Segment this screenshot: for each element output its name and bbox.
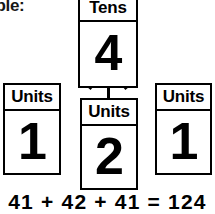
worksheet-figure: iple: Tens 4 Units 1 Units 2 Units 1 41 … — [0, 0, 215, 214]
cropped-caption-text: iple: — [0, 0, 24, 15]
units-box-middle-label: Units — [82, 100, 136, 126]
tens-box: Tens 4 — [78, 0, 138, 88]
units-box-right-label: Units — [157, 85, 210, 111]
units-box-left-digit: 1 — [5, 111, 59, 173]
equation-text: 41 + 42 + 41 = 124 — [0, 190, 215, 214]
units-box-right: Units 1 — [155, 83, 212, 175]
units-box-left: Units 1 — [3, 83, 61, 175]
units-box-left-label: Units — [5, 85, 59, 111]
units-box-middle-digit: 2 — [82, 126, 136, 188]
tens-box-digit: 4 — [80, 22, 136, 86]
units-box-right-digit: 1 — [157, 111, 210, 173]
units-box-middle: Units 2 — [80, 98, 138, 190]
tens-box-label: Tens — [80, 0, 136, 22]
